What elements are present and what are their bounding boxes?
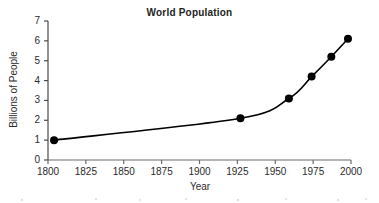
axes xyxy=(48,21,351,160)
data-point: 1974: 4.2 xyxy=(308,73,316,81)
y-tick-label: 5 xyxy=(24,55,40,66)
y-tick-label: 2 xyxy=(24,114,40,125)
scan-artifact xyxy=(0,196,379,203)
x-tick-label: 1925 xyxy=(217,166,257,177)
data-point: 1987: 5.2 xyxy=(327,53,335,61)
y-tick-label: 4 xyxy=(24,75,40,86)
data-markers: 1804: 11927: 2.11959: 3.11974: 4.21987: … xyxy=(50,35,352,144)
x-axis-ticks xyxy=(48,160,351,164)
y-tick-label: 6 xyxy=(24,35,40,46)
data-point: 1998: 6.1 xyxy=(344,35,352,43)
y-tick-label: 0 xyxy=(24,154,40,165)
world-population-chart: World Population Billions of People Year… xyxy=(0,0,379,203)
x-tick-label: 1825 xyxy=(66,166,106,177)
x-tick-label: 1950 xyxy=(255,166,295,177)
data-point: 1804: 1 xyxy=(50,136,58,144)
data-point: 1959: 3.1 xyxy=(285,94,293,102)
data-point: 1927: 2.1 xyxy=(236,114,244,122)
data-line xyxy=(54,39,348,140)
x-tick-label: 1850 xyxy=(104,166,144,177)
x-tick-label: 1900 xyxy=(180,166,220,177)
x-tick-label: 2000 xyxy=(331,166,371,177)
x-tick-label: 1975 xyxy=(293,166,333,177)
x-tick-label: 1800 xyxy=(28,166,68,177)
y-tick-label: 7 xyxy=(24,15,40,26)
y-tick-label: 1 xyxy=(24,134,40,145)
x-tick-label: 1875 xyxy=(142,166,182,177)
y-tick-label: 3 xyxy=(24,94,40,105)
